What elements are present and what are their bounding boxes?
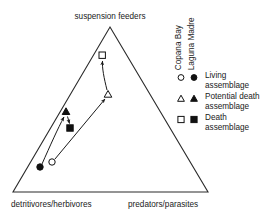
legend-square-open-icon: [176, 114, 190, 125]
legend-row-living-assemblage: Living assemblage: [176, 72, 275, 93]
legend-label-line2: assemblage: [205, 81, 249, 91]
point-laguna-potential-death-assemblage: [62, 108, 70, 115]
legend-triangle-open-icon: [176, 93, 190, 104]
connector-copana-potential-to-death: [102, 61, 107, 90]
ternary-diagram-figure: suspension feeders detritivores/herbivor…: [0, 0, 275, 219]
legend-label-line2: assemblage: [205, 102, 260, 112]
legend-triangle-filled-icon: [189, 93, 203, 104]
legend-label-line1: Living: [205, 71, 249, 81]
vertex-label-detritivores-herbivores: detritivores/herbivores: [11, 201, 92, 209]
legend-header-copana-bay: Copana Bay: [175, 25, 183, 70]
legend-label-line2: assemblage: [205, 123, 249, 133]
point-copana-potential-death-assemblage: [104, 91, 112, 98]
point-laguna-death-assemblage: [67, 125, 73, 131]
legend-entries: Living assemblage Potential death assemb…: [176, 72, 275, 135]
legend-circle-open-icon: [176, 72, 190, 83]
legend-square-filled-icon: [189, 114, 203, 125]
legend-label-line1: Potential death: [205, 92, 260, 102]
legend-column-headers: Copana Bay Laguna Madre: [176, 2, 206, 70]
legend-label-potential-death-assemblage: Potential death assemblage: [205, 92, 260, 112]
legend-label-living-assemblage: Living assemblage: [205, 71, 249, 91]
legend-label-line1: Death: [205, 113, 249, 123]
legend-row-death-assemblage: Death assemblage: [176, 114, 275, 135]
legend-row-potential-death-assemblage: Potential death assemblage: [176, 93, 275, 114]
legend: Copana Bay Laguna Madre Living assemblag…: [176, 2, 275, 136]
point-copana-death-assemblage: [99, 52, 105, 58]
connector-laguna-potential-to-death: [68, 117, 70, 124]
legend-label-death-assemblage: Death assemblage: [205, 113, 249, 133]
legend-header-laguna-madre: Laguna Madre: [188, 17, 196, 70]
point-laguna-living-assemblage: [37, 164, 43, 170]
vertex-label-predators-parasites: predators/parasites: [128, 201, 198, 209]
series-copana-bay: [49, 52, 112, 165]
point-copana-living-assemblage: [49, 159, 55, 165]
legend-circle-filled-icon: [189, 72, 203, 83]
